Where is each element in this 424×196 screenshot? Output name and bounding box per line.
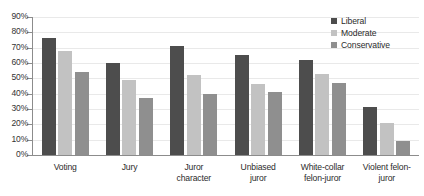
- bar-liberal: [363, 107, 377, 155]
- category-label-line: Violent felon-: [349, 162, 424, 173]
- bar-liberal: [170, 46, 184, 155]
- bar-moderate: [187, 75, 201, 155]
- bar-group: [97, 17, 161, 155]
- legend-swatch-icon-liberal: [331, 18, 337, 24]
- y-axis-tick-label: 20%: [0, 119, 28, 128]
- bar-group: [226, 17, 290, 155]
- legend-item-conservative[interactable]: Conservative: [331, 39, 390, 50]
- bar-chart: 0%10%20%30%40%50%60%70%80%90% VotingJury…: [0, 0, 424, 196]
- legend-item-liberal[interactable]: Liberal: [331, 15, 390, 26]
- bar-moderate: [122, 80, 136, 155]
- category-label: Violent felon-juror: [349, 162, 424, 183]
- bar-conservative: [203, 94, 217, 155]
- legend-label-liberal: Liberal: [341, 16, 366, 26]
- y-axis-tick-label: 70%: [0, 43, 28, 52]
- bar-group: [33, 17, 97, 155]
- bar-moderate: [58, 51, 72, 155]
- y-axis-tick-label: 0%: [0, 150, 28, 159]
- bar-conservative: [139, 98, 153, 155]
- legend-item-moderate[interactable]: Moderate: [331, 27, 390, 38]
- y-axis-tick-label: 40%: [0, 89, 28, 98]
- bar-conservative: [268, 92, 282, 155]
- legend: Liberal Moderate Conservative: [331, 15, 390, 51]
- legend-label-conservative: Conservative: [341, 40, 390, 50]
- bar-liberal: [106, 63, 120, 155]
- gridline: [33, 155, 419, 156]
- bar-conservative: [75, 72, 89, 155]
- bar-moderate: [380, 123, 394, 155]
- bar-liberal: [299, 60, 313, 155]
- bar-conservative: [396, 141, 410, 155]
- y-axis-tick-label: 90%: [0, 12, 28, 21]
- bar-conservative: [332, 83, 346, 155]
- category-label-line: juror: [349, 173, 424, 184]
- y-axis-tick-label: 30%: [0, 104, 28, 113]
- y-axis-tick-label: 80%: [0, 27, 28, 36]
- y-axis-tick-label: 10%: [0, 135, 28, 144]
- bar-liberal: [235, 55, 249, 155]
- legend-label-moderate: Moderate: [341, 28, 377, 38]
- bar-group: [162, 17, 226, 155]
- legend-swatch-icon-moderate: [331, 30, 337, 36]
- bar-moderate: [251, 84, 265, 155]
- bar-moderate: [315, 74, 329, 155]
- legend-swatch-icon-conservative: [331, 42, 337, 48]
- y-axis-tick-label: 60%: [0, 58, 28, 67]
- y-axis-tick-label: 50%: [0, 73, 28, 82]
- bar-liberal: [42, 38, 56, 155]
